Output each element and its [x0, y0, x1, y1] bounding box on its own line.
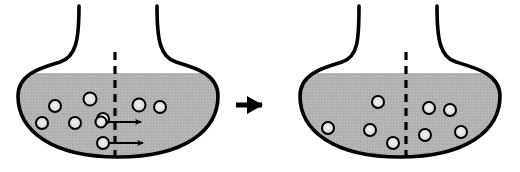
particle — [444, 104, 456, 116]
particle — [36, 117, 48, 129]
particle-crossing — [96, 117, 107, 128]
particle — [455, 126, 467, 138]
particle — [387, 137, 399, 149]
diffusion-illustration — [0, 0, 520, 172]
flask-liquid-after — [292, 73, 508, 163]
diffusion-figure — [0, 0, 520, 172]
particle — [419, 129, 431, 141]
particle — [322, 122, 334, 134]
particle — [69, 117, 81, 129]
panel-after-diffusion — [292, 6, 508, 163]
particle — [84, 93, 97, 106]
particle — [423, 102, 435, 114]
particle — [49, 100, 61, 112]
particle — [154, 101, 166, 113]
particle — [133, 99, 146, 112]
particle — [364, 124, 376, 136]
panel-before-diffusion — [10, 6, 226, 163]
particle — [372, 96, 384, 108]
particle-crossing — [97, 137, 109, 149]
